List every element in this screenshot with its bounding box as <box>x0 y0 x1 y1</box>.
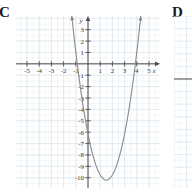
y-tick-label: 2 <box>81 38 85 46</box>
y-axis <box>86 16 91 188</box>
x-axis-label: x <box>151 67 156 75</box>
graph-d <box>174 16 192 188</box>
graph-c: -5-4-3-2-112345 -10-9-8-7-6-5-4-3-2-1123… <box>16 16 160 188</box>
answer-choice-d-panel[interactable]: D <box>168 0 192 193</box>
y-tick-label: -8 <box>78 151 84 159</box>
x-tick-label: -5 <box>24 67 30 75</box>
y-tick-label: -9 <box>78 163 84 171</box>
answer-choice-c-panel[interactable]: C -5-4-3-2-112345 -10-9-8-7-6-5-4-3-2-11… <box>0 0 168 193</box>
y-tick-label: 3 <box>81 26 85 34</box>
y-tick-label: -5 <box>78 117 84 125</box>
x-tick-label: -3 <box>48 67 54 75</box>
grid-minor-lines-d <box>174 16 192 188</box>
x-tick-label: -2 <box>61 67 67 75</box>
y-tick-label: -7 <box>78 140 84 148</box>
coordinate-plane-d <box>174 16 192 188</box>
y-tick-label: -6 <box>78 129 84 137</box>
x-tick-label: 5 <box>147 67 151 75</box>
x-tick-label: -4 <box>36 67 42 75</box>
y-tick-label: -10 <box>75 174 85 182</box>
x-tick-label: 1 <box>98 67 102 75</box>
x-tick-label: 4 <box>135 67 139 75</box>
y-tick-label: 1 <box>81 49 85 57</box>
x-tick-label: 2 <box>111 67 115 75</box>
y-tick-label: -2 <box>78 83 84 91</box>
x-tick-label: 3 <box>123 67 127 75</box>
coordinate-plane-c: -5-4-3-2-112345 -10-9-8-7-6-5-4-3-2-1123… <box>16 16 160 188</box>
choice-letter-c: C <box>0 5 10 20</box>
